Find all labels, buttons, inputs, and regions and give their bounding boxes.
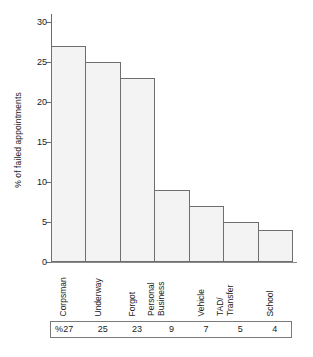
- bar: [120, 78, 155, 262]
- plot-area: 051015202530: [51, 14, 292, 262]
- x-axis-category-labels: CorpsmanUnderwayForgotPersonalBusinessVe…: [51, 264, 292, 316]
- table-cell: 27: [51, 322, 85, 337]
- table-cell: 7: [189, 322, 223, 337]
- x-category-label: Underway: [85, 264, 119, 316]
- bar-series: [51, 14, 292, 262]
- table-cell: 23: [120, 322, 154, 337]
- bar: [51, 46, 86, 262]
- bar-chart-figure: % of failed appointments 051015202530 Co…: [0, 0, 313, 357]
- bar: [258, 230, 293, 262]
- x-category-label-text: Forgot: [128, 291, 138, 316]
- table-cell: 5: [223, 322, 257, 337]
- y-tick-label: 25: [37, 57, 47, 67]
- y-tick-label: 20: [37, 97, 47, 107]
- bar: [223, 222, 258, 262]
- bar: [189, 206, 224, 262]
- data-table: % 2725239754: [50, 321, 292, 338]
- x-category-label-text: School: [265, 290, 275, 316]
- bar: [85, 62, 120, 262]
- x-category-label-text: TAD/Transfer: [216, 285, 235, 316]
- y-tick-label: 10: [37, 177, 47, 187]
- x-category-label: PersonalBusiness: [154, 264, 188, 316]
- table-cell: 9: [154, 322, 188, 337]
- x-category-label-text: Underway: [93, 278, 103, 316]
- y-tick-label: 30: [37, 17, 47, 27]
- y-tick-label: 15: [37, 137, 47, 147]
- x-category-label: School: [258, 264, 292, 316]
- y-axis-title: % of failed appointments: [13, 60, 23, 220]
- bar: [154, 190, 189, 262]
- x-category-label: Corpsman: [51, 264, 85, 316]
- x-category-label-text: Corpsman: [59, 277, 69, 316]
- x-category-label: TAD/Transfer: [223, 264, 257, 316]
- table-cell: 4: [258, 322, 292, 337]
- y-tick-label: 0: [42, 257, 47, 267]
- x-category-label-text: PersonalBusiness: [147, 282, 166, 317]
- x-axis-line: [49, 262, 297, 263]
- table-cell: 25: [85, 322, 119, 337]
- x-category-label-text: Vehicle: [196, 289, 206, 316]
- y-tick-label: 5: [42, 217, 47, 227]
